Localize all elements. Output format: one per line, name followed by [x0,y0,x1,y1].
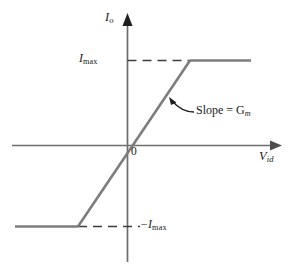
y-axis-arrowhead [123,13,133,26]
origin-label-text: 0 [131,145,137,157]
slope-annotation-label: Slope = Gm [196,104,251,116]
negative-saturation-symbol: −I [140,217,152,231]
slope-annotation-arrow [169,97,194,112]
x-axis-arrowhead [270,141,282,151]
slope-annotation-text: Slope = G [196,103,245,117]
y-axis-label: Io [105,11,114,24]
origin-label: 0 [131,146,137,158]
transfer-characteristic-figure: Io Vid Imax −Imax 0 Slope = Gm [0,0,296,276]
x-axis-label-subscript: id [267,154,274,164]
positive-saturation-label: Imax [79,52,98,64]
negative-saturation-subscript: max [152,223,167,232]
plot-canvas [0,0,296,276]
x-axis-label-symbol: V [259,149,267,163]
linear-slope-segment [78,61,190,227]
negative-saturation-label: −Imax [140,218,167,230]
transfer-curve-group [15,61,251,227]
x-axis-label: Vid [259,150,274,163]
slope-annotation-subscript: m [245,109,251,118]
positive-saturation-subscript: max [83,57,98,66]
y-axis-label-subscript: o [109,15,113,25]
